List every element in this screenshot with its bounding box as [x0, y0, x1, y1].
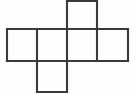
row-square-4 — [97, 29, 128, 61]
row-square-1 — [7, 29, 37, 61]
row-square-3 — [67, 29, 97, 61]
top-square — [67, 1, 97, 29]
bottom-square — [37, 61, 67, 92]
row-square-2 — [37, 29, 67, 61]
cube-net-diagram — [0, 0, 135, 94]
cube-net-figure — [0, 0, 135, 94]
